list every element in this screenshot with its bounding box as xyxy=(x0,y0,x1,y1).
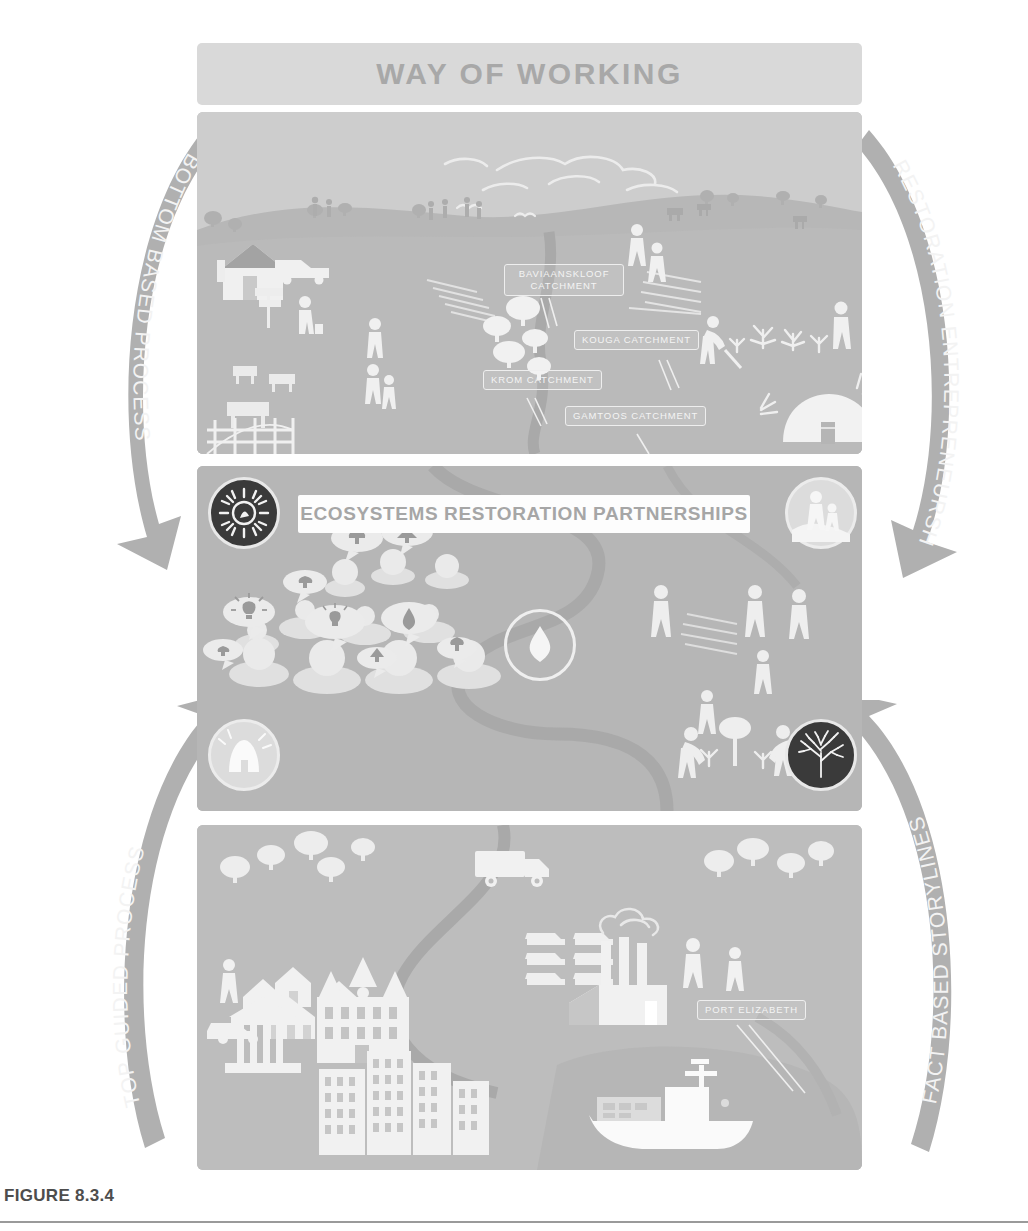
adult-child-icon xyxy=(792,484,850,542)
arrow-label-fact-based-storylines: FACT BASED STORYLINES xyxy=(903,813,952,1105)
partnerships-title: ECOSYSTEMS RESTORATION PARTNERSHIPS xyxy=(298,495,750,533)
figure-canvas: WAY OF WORKING BOTTOM BASED PROCESS REST… xyxy=(0,0,1028,1231)
tree-badge xyxy=(785,719,857,791)
water-drop-badge xyxy=(504,609,576,681)
figure-caption: FIGURE 8.3.4 xyxy=(4,1186,114,1206)
arrow-fact-based-storylines: FACT BASED STORYLINES xyxy=(845,700,985,1170)
panel-urban-port-landscape: PORT ELIZABETH xyxy=(197,825,862,1170)
svg-text:BOTTOM BASED PROCESS: BOTTOM BASED PROCESS xyxy=(129,150,204,442)
svg-text:FACT BASED STORYLINES: FACT BASED STORYLINES xyxy=(903,813,952,1105)
svg-text:RESTORATION ENTREPRENEURSHIP: RESTORATION ENTREPRENEURSHIP xyxy=(845,112,963,550)
banner-title: WAY OF WORKING xyxy=(197,43,862,105)
arrow-label-restoration-entrepreneurship: RESTORATION ENTREPRENEURSHIP xyxy=(845,112,963,550)
callout-port-elizabeth: PORT ELIZABETH xyxy=(697,1000,806,1020)
adult-child-badge xyxy=(785,477,857,549)
sun-burst-icon xyxy=(216,485,272,541)
panel-ecosystems-restoration-partnerships: ECOSYSTEMS RESTORATION PARTNERSHIPS xyxy=(197,466,862,811)
cathedral-icon xyxy=(317,957,409,1063)
arrow-restoration-entrepreneurship: RESTORATION ENTREPRENEURSHIP xyxy=(845,112,985,582)
sun-burst-badge xyxy=(208,477,280,549)
callout-kouga: KOUGA CATCHMENT xyxy=(574,330,699,350)
callout-krom: KROM CATCHMENT xyxy=(483,370,602,390)
hut-icon xyxy=(215,726,273,784)
urban-port-scene xyxy=(197,825,862,1170)
tree-icon xyxy=(793,727,849,783)
panel-catchment-landscape: BAVIAANSKLOOF CATCHMENT KOUGA CATCHMENT … xyxy=(197,112,862,454)
arrow-label-bottom-based-process: BOTTOM BASED PROCESS xyxy=(129,150,204,442)
water-drop-icon xyxy=(519,622,561,668)
caption-rule xyxy=(0,1221,1028,1223)
way-of-working-banner: WAY OF WORKING xyxy=(197,43,862,105)
hut-badge xyxy=(208,719,280,791)
callout-baviaanskloof: BAVIAANSKLOOF CATCHMENT xyxy=(504,264,624,296)
callout-gamtoos: GAMTOOS CATCHMENT xyxy=(565,406,706,426)
